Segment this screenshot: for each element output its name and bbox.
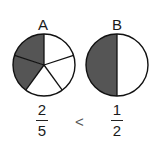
- circle-b-shaded-half: [86, 34, 117, 96]
- fraction-a-numerator: 2: [32, 103, 52, 117]
- circle-b: [86, 34, 148, 96]
- circle-a: [13, 34, 75, 96]
- comparison-sign: <: [75, 114, 84, 129]
- fraction-a-bar: [36, 120, 48, 121]
- fraction-b-bar: [111, 120, 123, 121]
- fraction-b: 1 2: [107, 103, 127, 138]
- fraction-a-denominator: 5: [32, 124, 52, 138]
- fraction-b-numerator: 1: [107, 103, 127, 117]
- fraction-b-denominator: 2: [107, 124, 127, 138]
- fraction-a: 2 5: [32, 103, 52, 138]
